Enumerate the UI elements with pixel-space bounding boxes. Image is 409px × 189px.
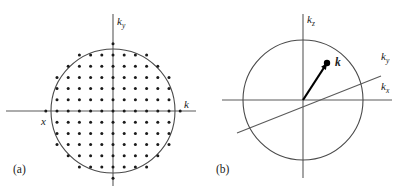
lattice-dot bbox=[156, 121, 159, 124]
lattice-dot bbox=[134, 154, 137, 157]
lattice-dot bbox=[145, 132, 148, 135]
lattice-dot bbox=[134, 87, 137, 90]
lattice-dot bbox=[112, 154, 115, 157]
x-label: x bbox=[41, 116, 46, 127]
lattice-dot bbox=[123, 54, 126, 57]
lattice-dot bbox=[123, 87, 126, 90]
lattice-dot bbox=[89, 65, 92, 68]
lattice-dot bbox=[123, 143, 126, 146]
lattice-dot bbox=[145, 76, 148, 79]
lattice-dot bbox=[100, 98, 103, 101]
lattice-dot bbox=[56, 121, 59, 124]
lattice-dot bbox=[168, 110, 171, 113]
lattice-dot bbox=[56, 132, 59, 135]
lattice-dot bbox=[123, 65, 126, 68]
lattice-dot bbox=[78, 54, 81, 57]
lattice-dot bbox=[112, 87, 115, 90]
lattice-dot bbox=[123, 132, 126, 135]
lattice-dot bbox=[67, 65, 70, 68]
lattice-dot bbox=[100, 110, 103, 113]
k-axis-label: k bbox=[184, 99, 189, 110]
lattice-dot bbox=[89, 87, 92, 90]
k-vector-tip-dot bbox=[324, 60, 330, 66]
lattice-dot bbox=[134, 143, 137, 146]
lattice-dot bbox=[168, 143, 171, 146]
k-vector-shaft bbox=[303, 63, 327, 100]
lattice-dot bbox=[134, 121, 137, 124]
lattice-dot bbox=[134, 65, 137, 68]
lattice-dot bbox=[56, 87, 59, 90]
lattice-dot bbox=[112, 98, 115, 101]
lattice-dot bbox=[78, 143, 81, 146]
lattice-dot bbox=[123, 76, 126, 79]
lattice-dot bbox=[168, 98, 171, 101]
lattice-dot bbox=[56, 76, 59, 79]
lattice-dot bbox=[134, 166, 137, 169]
lattice-dot bbox=[123, 121, 126, 124]
lattice-dot bbox=[78, 154, 81, 157]
k-y-axis-label: ky bbox=[381, 51, 389, 65]
lattice-dot bbox=[89, 98, 92, 101]
lattice-dot bbox=[156, 143, 159, 146]
lattice-dot bbox=[56, 143, 59, 146]
lattice-dot bbox=[100, 154, 103, 157]
lattice-dot bbox=[112, 54, 115, 57]
lattice-dot bbox=[112, 132, 115, 135]
lattice-dot bbox=[89, 76, 92, 79]
lattice-dot bbox=[78, 166, 81, 169]
lattice-dot bbox=[100, 54, 103, 57]
lattice-dot bbox=[78, 98, 81, 101]
k-y-axis-line bbox=[237, 76, 381, 133]
lattice-dot bbox=[78, 87, 81, 90]
lattice-dot bbox=[100, 87, 103, 90]
lattice-dot bbox=[123, 154, 126, 157]
lattice-dot bbox=[134, 132, 137, 135]
lattice-dot bbox=[100, 143, 103, 146]
lattice-dot bbox=[145, 143, 148, 146]
lattice-dot bbox=[112, 76, 115, 79]
lattice-dot bbox=[168, 121, 171, 124]
lattice-dot bbox=[134, 54, 137, 57]
lattice-dot bbox=[44, 110, 47, 113]
lattice-dot bbox=[156, 132, 159, 135]
lattice-dot bbox=[145, 110, 148, 113]
lattice-dot bbox=[89, 110, 92, 113]
lattice-dot bbox=[112, 65, 115, 68]
figure-container: kykx kzkykxk (a) (b) bbox=[0, 0, 409, 189]
k-z-axis-label: kz bbox=[307, 14, 315, 28]
lattice-dot bbox=[78, 65, 81, 68]
lattice-dot bbox=[67, 76, 70, 79]
lattice-dot bbox=[145, 87, 148, 90]
lattice-dot bbox=[112, 143, 115, 146]
lattice-dot bbox=[89, 121, 92, 124]
lattice-dot bbox=[67, 98, 70, 101]
lattice-dot bbox=[78, 132, 81, 135]
lattice-dot bbox=[145, 98, 148, 101]
lattice-dot bbox=[67, 110, 70, 113]
lattice-dot bbox=[100, 166, 103, 169]
lattice-dot bbox=[67, 154, 70, 157]
lattice-dot bbox=[145, 121, 148, 124]
k-x-axis-label: kx bbox=[381, 81, 389, 95]
panel-b-diagram bbox=[205, 0, 409, 189]
lattice-dot bbox=[112, 110, 115, 113]
lattice-dot bbox=[56, 110, 59, 113]
lattice-dot bbox=[78, 121, 81, 124]
lattice-dot bbox=[156, 154, 159, 157]
lattice-dot bbox=[134, 110, 137, 113]
lattice-dot bbox=[112, 42, 115, 45]
lattice-dot bbox=[100, 76, 103, 79]
lattice-dot bbox=[123, 110, 126, 113]
lattice-dot bbox=[168, 76, 171, 79]
lattice-dot bbox=[112, 177, 115, 180]
k-vector-label: k bbox=[335, 57, 341, 69]
k-y-axis-label: ky bbox=[117, 16, 125, 30]
lattice-dot bbox=[145, 154, 148, 157]
lattice-dot bbox=[89, 54, 92, 57]
lattice-dot bbox=[56, 98, 59, 101]
lattice-dot bbox=[134, 98, 137, 101]
lattice-dot bbox=[100, 65, 103, 68]
lattice-dot bbox=[168, 87, 171, 90]
lattice-dot bbox=[78, 110, 81, 113]
lattice-dot bbox=[123, 98, 126, 101]
